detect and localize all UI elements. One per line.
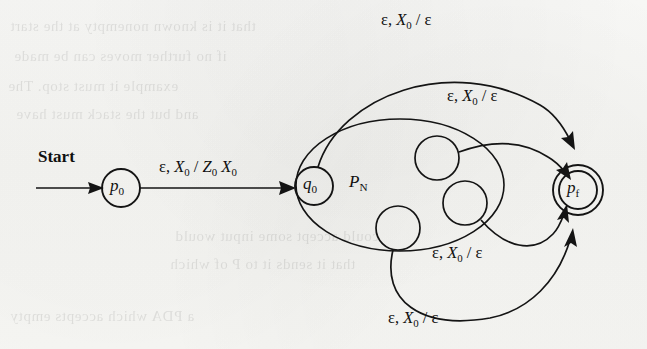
acc1-pop: X [396, 10, 406, 29]
start-label: Start [38, 147, 75, 167]
acc4-input: ε [388, 308, 395, 327]
edge-label-accept-1: ε, X0 / ε [381, 10, 432, 31]
init-push: Z [203, 157, 212, 176]
acc2-sep: , [454, 86, 458, 105]
pda-diagram-figure: that it is known nonempty at the start i… [0, 0, 647, 349]
edge-p0-to-q0 [140, 181, 296, 195]
edge-label-accept-2: ε, X0 / ε [447, 86, 498, 107]
region-pn-label: PN [349, 172, 368, 193]
acc2-pop-sub: 0 [472, 95, 477, 107]
region-pn-sub: N [359, 181, 367, 193]
region-pn-name: P [349, 172, 359, 191]
edge-inner1-to-pf [459, 144, 571, 180]
state-q0-sub: 0 [312, 183, 318, 195]
acc4-sep: , [395, 308, 399, 327]
start-arrow [36, 182, 104, 194]
state-inner3-circle [376, 206, 420, 250]
acc4-pop-sub: 0 [413, 317, 418, 329]
init-pop: X [174, 157, 184, 176]
init-sep: , [166, 157, 170, 176]
state-q0-name: q [303, 174, 312, 193]
state-p0-name: p [110, 176, 119, 195]
acc1-pop-sub: 0 [406, 19, 411, 31]
state-p0-label: p0 [110, 176, 124, 197]
init-push2-sub: 0 [231, 166, 236, 178]
state-q0-label: q0 [303, 174, 317, 195]
acc2-pop: X [462, 86, 472, 105]
state-inner2-circle [443, 181, 487, 225]
init-push-sub: 0 [212, 166, 217, 178]
init-input: ε [159, 157, 166, 176]
acc3-pop: X [447, 243, 457, 262]
region-pn-ellipse [296, 119, 504, 251]
state-pf-sub: f [576, 187, 580, 199]
state-pf-name: p [567, 178, 576, 197]
acc1-sep: , [388, 10, 392, 29]
acc4-pop: X [403, 308, 413, 327]
init-pop-sub: 0 [184, 166, 189, 178]
state-pf-label: pf [567, 178, 579, 199]
edge-label-accept-4: ε, X0 / ε [388, 308, 439, 329]
acc4-push: ε [432, 308, 439, 327]
state-inner1-circle [415, 136, 459, 180]
edge-inner3-to-pf [391, 228, 577, 321]
acc3-input: ε [432, 243, 439, 262]
init-push2: X [221, 157, 231, 176]
edge-label-accept-3: ε, X0 / ε [432, 243, 483, 264]
acc1-input: ε [381, 10, 388, 29]
acc3-pop-sub: 0 [457, 252, 462, 264]
acc2-push: ε [491, 86, 498, 105]
edge-label-init: ε, X0 / Z0 X0 [159, 157, 237, 178]
acc3-push: ε [476, 243, 483, 262]
diagram-canvas [0, 0, 647, 349]
acc1-push: ε [425, 10, 432, 29]
acc3-sep: , [439, 243, 443, 262]
acc2-input: ε [447, 86, 454, 105]
state-p0-sub: 0 [119, 185, 125, 197]
edge-inner2-to-pf [481, 204, 569, 246]
